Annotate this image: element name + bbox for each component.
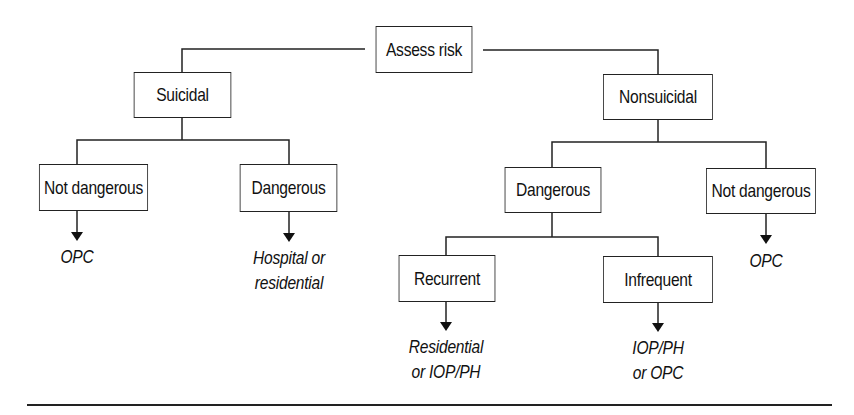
nonsuicidal-not-dangerous-label: Not dangerous [711, 180, 810, 202]
outcome-line: OPC [36, 244, 118, 269]
suicidal-node: Suicidal [134, 72, 232, 118]
recurrent-label: Recurrent [414, 268, 480, 290]
bottom-rule [27, 404, 832, 406]
infrequent-node: Infrequent [603, 256, 713, 303]
outcome-suicidal-not-dangerous: OPC [36, 244, 118, 269]
outcome-line: or OPC [609, 360, 707, 385]
outcome-line: IOP/PH [609, 335, 707, 360]
suicidal-label: Suicidal [156, 84, 209, 106]
nonsuicidal-not-dangerous-node: Not dangerous [706, 168, 816, 214]
outcome-line: OPC [725, 248, 807, 273]
nonsuicidal-label: Nonsuicidal [619, 86, 697, 108]
assess-risk-node: Assess risk [376, 26, 473, 73]
outcome-infrequent: IOP/PH or OPC [609, 335, 707, 385]
outcome-line: residential [240, 270, 338, 295]
nonsuicidal-dangerous-node: Dangerous [505, 167, 602, 213]
outcome-line: Residential [397, 334, 495, 359]
outcome-nonsuicidal-not-dangerous: OPC [725, 248, 807, 273]
suicidal-dangerous-node: Dangerous [240, 164, 338, 212]
assess-risk-label: Assess risk [386, 39, 462, 61]
outcome-line: Hospital or [240, 245, 338, 270]
outcome-recurrent: Residential or IOP/PH [397, 334, 495, 384]
suicidal-not-dangerous-node: Not dangerous [39, 164, 148, 211]
infrequent-label: Infrequent [624, 269, 692, 291]
nonsuicidal-node: Nonsuicidal [603, 74, 713, 120]
suicidal-not-dangerous-label: Not dangerous [44, 177, 143, 199]
nonsuicidal-dangerous-label: Dangerous [516, 179, 590, 201]
suicidal-dangerous-label: Dangerous [251, 177, 325, 199]
outcome-suicidal-dangerous: Hospital or residential [240, 245, 338, 295]
recurrent-node: Recurrent [399, 255, 496, 302]
outcome-line: or IOP/PH [397, 359, 495, 384]
